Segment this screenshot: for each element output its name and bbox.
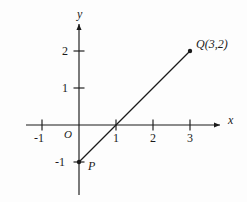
point-p-marker [77,160,81,164]
point-q-marker [188,49,192,53]
point-q-label: Q(3,2) [196,38,228,50]
y-tick-label-2: 2 [62,45,68,57]
y-tick-label-minus1: -1 [55,156,65,168]
y-axis-label: y [77,8,82,20]
y-tick-label-1: 1 [62,82,68,94]
x-tick-label-3: 3 [187,132,193,144]
point-p-label: P [88,160,95,172]
coordinate-plane-figure: y x O -1 1 2 3 2 1 -1 P Q(3,2) [0,0,247,202]
x-tick-label-1: 1 [113,132,119,144]
segment-pq [79,51,190,162]
graph-canvas [0,0,247,202]
x-tick-label-2: 2 [150,132,156,144]
x-tick-label-minus1: -1 [34,132,44,144]
x-axis-label: x [228,114,233,126]
origin-label: O [64,129,72,140]
